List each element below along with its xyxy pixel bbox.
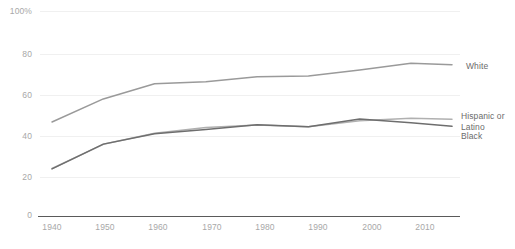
series-line-white	[52, 63, 452, 122]
series-label-black: Black	[461, 131, 482, 142]
series-label-white: White	[466, 61, 488, 72]
series-label-hispanic: Hispanic or Latino	[461, 111, 505, 132]
series-line-black	[52, 119, 452, 169]
plot-area	[0, 0, 515, 249]
line-chart: 100% 80 60 40 20 0 1940 1950 1960 1970 1…	[0, 0, 515, 249]
